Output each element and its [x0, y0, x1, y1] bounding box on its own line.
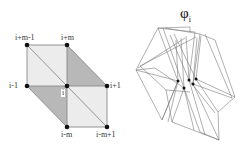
- node-label-bottom-mid: i-m: [61, 131, 72, 139]
- basis-function-title: φi: [180, 6, 191, 24]
- node-label-mid-right: i+1: [110, 82, 121, 90]
- node-label-center: i: [61, 89, 65, 97]
- node-label-mid-left: i-1: [9, 82, 18, 90]
- node-label-bottom-right: i-m+1: [96, 131, 116, 139]
- triangular-mesh-stencil: i+m-1 i+m i-1 i i+1 i-m i-m+1: [0, 0, 125, 150]
- phi-symbol: φ: [180, 5, 189, 21]
- mesh-stencil-graphic: [0, 0, 125, 150]
- node-label-top-left: i+m-1: [15, 34, 35, 42]
- phi-subscript: i: [189, 15, 191, 24]
- node-label-top-mid: i+m: [61, 34, 74, 42]
- basis-function-wireframe: φi: [125, 0, 250, 150]
